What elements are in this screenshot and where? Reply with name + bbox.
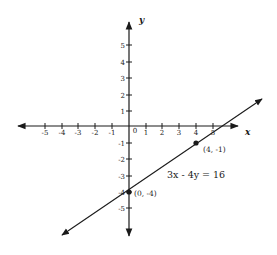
- x-tick-label: 1: [144, 129, 148, 137]
- x-tick-label: -2: [92, 129, 99, 137]
- coordinate-graph: -5 -4 -3 -2 -1 0 1 2 3 4 5 5 4 3 2 1 -1 …: [0, 0, 277, 255]
- y-tick-label: -1: [118, 140, 125, 148]
- y-axis-label: y: [138, 15, 145, 25]
- point-0-neg4: [126, 189, 131, 194]
- x-tick-label: -4: [59, 129, 66, 137]
- y-tick-label: 5: [121, 42, 125, 50]
- x-tick-label: 3: [177, 129, 181, 137]
- y-tick-label: -2: [118, 156, 125, 164]
- point-label: (4, -1): [203, 145, 226, 154]
- x-tick-label: -3: [75, 129, 82, 137]
- y-tick-labels: 5 4 3 2 1 -1 -2 -3 -4 -5: [118, 42, 125, 213]
- equation-line: [62, 99, 262, 235]
- point-4-neg1: [193, 140, 198, 145]
- y-tick-label: 1: [121, 108, 125, 116]
- x-tick-label: -1: [109, 129, 116, 137]
- y-tick-label: 2: [121, 92, 125, 100]
- y-tick-label: -3: [118, 173, 125, 181]
- origin-label: 0: [133, 127, 137, 135]
- y-tick-label: 4: [121, 59, 126, 67]
- x-tick-label: 2: [160, 129, 164, 137]
- point-label: (0, -4): [134, 189, 157, 198]
- x-tick-label: 4: [194, 129, 199, 137]
- equation-label: 3x - 4y = 16: [167, 169, 225, 180]
- x-axis-label: x: [244, 127, 251, 137]
- y-tick-label: -5: [118, 205, 125, 213]
- y-tick-label: 3: [121, 75, 125, 83]
- x-tick-label: -5: [42, 129, 49, 137]
